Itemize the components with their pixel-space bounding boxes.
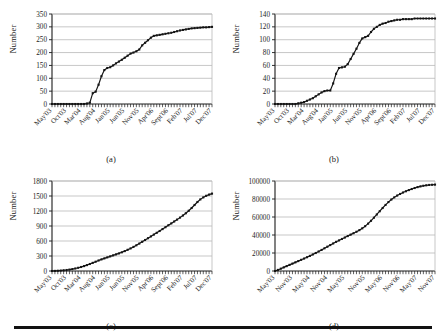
svg-text:May'06: May'06 (363, 273, 384, 294)
svg-text:60: 60 (263, 62, 271, 70)
chart-panel-a: Number 050100150200250300350May'03Oct'03… (0, 0, 222, 166)
svg-text:900: 900 (36, 223, 47, 231)
chart-panel-c: Number 0300600900120015001800May'03Oct'0… (0, 167, 222, 333)
chart-panel-b: Number 020406080100120140May'03Oct'03Mar… (223, 0, 445, 166)
svg-text:Feb'07: Feb'07 (165, 106, 184, 125)
svg-text:140: 140 (259, 11, 270, 19)
chart-panel-d: Number 020000400006000080000100000May'03… (223, 167, 445, 333)
line-chart-c: 0300600900120015001800May'03Oct'03Mar'04… (0, 167, 222, 313)
svg-text:Sept'06: Sept'06 (150, 273, 171, 294)
svg-text:May'03: May'03 (256, 273, 277, 294)
svg-text:Aug'04: Aug'04 (77, 273, 97, 293)
svg-text:Sept'06: Sept'06 (373, 106, 394, 127)
svg-text:50: 50 (40, 88, 48, 96)
panel-caption-a: (a) (0, 154, 222, 164)
svg-text:Nov'03: Nov'03 (274, 273, 294, 293)
svg-text:Dec'07: Dec'07 (194, 273, 214, 293)
svg-text:300: 300 (36, 253, 47, 261)
svg-text:Nov'05: Nov'05 (344, 106, 364, 126)
svg-text:120: 120 (259, 23, 270, 31)
plot-area-d: Number 020000400006000080000100000May'03… (223, 167, 445, 313)
svg-text:1800: 1800 (33, 178, 48, 186)
svg-text:Nov'06: Nov'06 (381, 273, 401, 293)
svg-text:350: 350 (36, 11, 47, 19)
svg-text:200: 200 (36, 49, 47, 57)
line-chart-b: 020406080100120140May'03Oct'03Mar'04Aug'… (223, 0, 445, 146)
svg-text:Dec'07: Dec'07 (417, 106, 437, 126)
svg-text:Feb'07: Feb'07 (388, 106, 407, 125)
svg-text:Nov'04: Nov'04 (309, 273, 329, 293)
svg-text:40000: 40000 (252, 232, 270, 240)
svg-text:Aug'04: Aug'04 (300, 106, 320, 126)
svg-text:20000: 20000 (252, 250, 270, 258)
svg-text:Sept'06: Sept'06 (150, 106, 171, 127)
panel-caption-b: (b) (223, 154, 445, 164)
svg-text:60000: 60000 (252, 214, 270, 222)
svg-text:Nov'05: Nov'05 (121, 273, 141, 293)
svg-text:Nov'05: Nov'05 (121, 106, 141, 126)
svg-text:Nov'07: Nov'07 (416, 273, 436, 293)
plot-area-a: Number 050100150200250300350May'03Oct'03… (0, 0, 222, 146)
line-chart-d: 020000400006000080000100000May'03Nov'03M… (223, 167, 445, 313)
bottom-horizontal-rule (14, 326, 432, 329)
svg-text:150: 150 (36, 62, 47, 70)
svg-text:Feb'07: Feb'07 (165, 273, 184, 292)
line-chart-a: 050100150200250300350May'03Oct'03Mar'04A… (0, 0, 222, 146)
svg-text:20: 20 (263, 88, 271, 96)
svg-text:1500: 1500 (33, 193, 48, 201)
svg-text:Aug'04: Aug'04 (77, 106, 97, 126)
svg-text:May'04: May'04 (291, 273, 312, 294)
svg-text:80: 80 (263, 49, 271, 57)
svg-text:250: 250 (36, 36, 47, 44)
svg-text:100: 100 (259, 36, 270, 44)
svg-text:May'03: May'03 (33, 106, 54, 127)
svg-text:May'03: May'03 (33, 273, 54, 294)
svg-text:40: 40 (263, 75, 271, 83)
svg-text:May'05: May'05 (326, 273, 347, 294)
svg-text:80000: 80000 (252, 196, 270, 204)
plot-area-c: Number 0300600900120015001800May'03Oct'0… (0, 167, 222, 313)
svg-text:600: 600 (36, 238, 47, 246)
svg-text:Nov'05: Nov'05 (347, 273, 367, 293)
svg-text:Dec'07: Dec'07 (194, 106, 214, 126)
svg-text:300: 300 (36, 23, 47, 31)
svg-text:1200: 1200 (33, 208, 48, 216)
svg-text:100: 100 (36, 75, 47, 83)
svg-text:May'03: May'03 (256, 106, 277, 127)
figure-panel-grid: Number 050100150200250300350May'03Oct'03… (0, 0, 445, 333)
svg-text:May'07: May'07 (398, 273, 419, 294)
svg-text:100000: 100000 (248, 178, 270, 186)
plot-area-b: Number 020406080100120140May'03Oct'03Mar… (223, 0, 445, 146)
